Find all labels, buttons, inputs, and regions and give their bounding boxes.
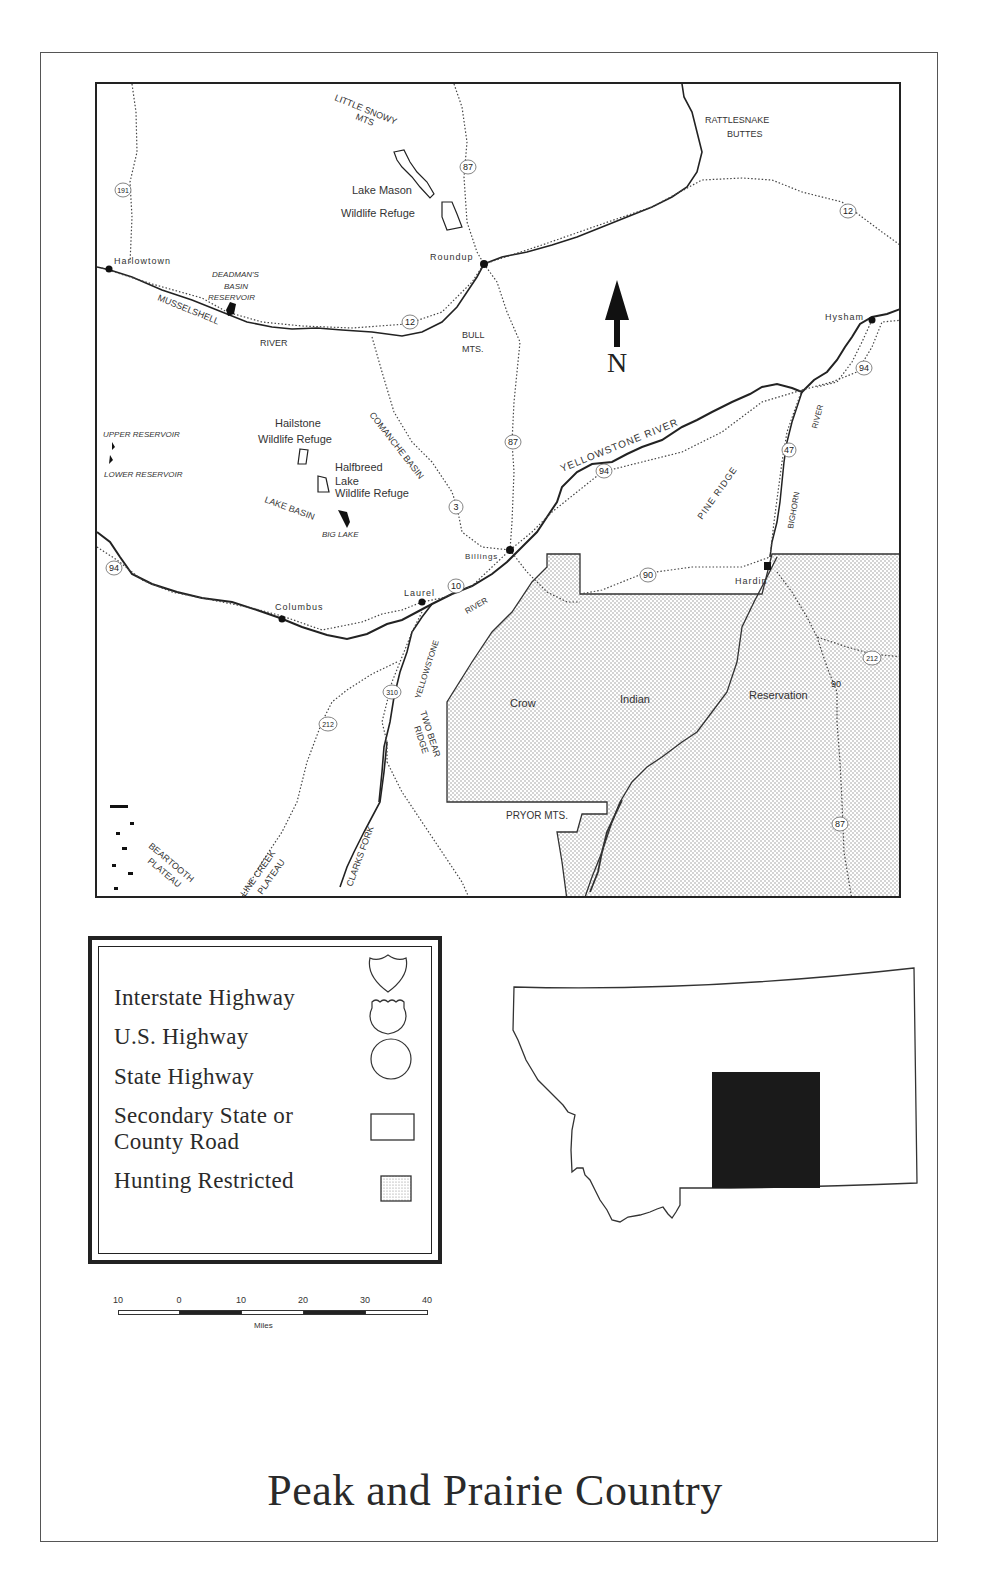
scale-tick: 0	[176, 1295, 181, 1305]
svg-text:94: 94	[109, 563, 119, 573]
shield-us87-south: 87	[832, 817, 848, 831]
label-pine-ridge: PINE RIDGE	[695, 465, 739, 522]
shield-i94-central: 94	[596, 464, 612, 478]
label-hailstone-2: Wildlife Refuge	[258, 433, 332, 445]
shield-us12-west: 12	[402, 315, 418, 329]
stippled-square-icon	[380, 1175, 414, 1205]
label-lake-mason: Lake Mason	[352, 184, 412, 196]
scale-tick: 40	[422, 1295, 432, 1305]
label-crow: Crow	[510, 697, 536, 709]
label-pryor-mts: PRYOR MTS.	[506, 810, 568, 821]
shield-us212-east: 212	[863, 651, 881, 665]
svg-text:94: 94	[859, 363, 869, 373]
label-yellowstone-lower-2: YELLOWSTONE	[413, 639, 440, 700]
scale-tick: 10	[236, 1295, 246, 1305]
label-deadmans-basin-2: BASIN	[224, 282, 248, 291]
svg-text:94: 94	[599, 466, 609, 476]
state-circle-icon	[370, 1038, 414, 1082]
scale-segment	[365, 1310, 428, 1315]
town-label-columbus: Columbus	[275, 602, 324, 612]
label-deadmans-basin: DEADMAN'S	[212, 270, 260, 279]
town-dot-columbus	[279, 616, 286, 623]
scale-tick: 20	[298, 1295, 308, 1305]
scale-tick: 10	[113, 1295, 123, 1305]
label-halfbreed: Halfbreed	[335, 461, 383, 473]
label-lake-basin: LAKE BASIN	[263, 494, 316, 521]
clarks-fork-river	[340, 742, 387, 887]
label-reservation: Reservation	[749, 689, 808, 701]
label-bighorn: BIGHORN	[786, 491, 801, 530]
road-i94-west	[97, 547, 510, 630]
shield-i94-east: 94	[856, 361, 872, 375]
shield-us310: 310	[383, 685, 401, 699]
legend: Interstate Highway U.S. Highway State Hi…	[88, 936, 442, 1264]
svg-text:87: 87	[463, 162, 473, 172]
big-lake	[338, 510, 350, 528]
town-label-hysham: Hysham	[825, 312, 864, 322]
town-label-harlowtown: Harlowtown	[114, 256, 171, 266]
svg-text:87: 87	[835, 819, 845, 829]
north-arrow-icon	[605, 280, 629, 347]
legend-label-secondary-road: Secondary State or	[114, 1103, 293, 1129]
svg-text:3: 3	[453, 502, 458, 512]
road-hysham	[817, 320, 872, 387]
legend-label-county-road: County Road	[114, 1129, 239, 1155]
svg-text:212: 212	[322, 721, 334, 728]
us-shield-icon	[366, 996, 414, 1036]
town-label-roundup: Roundup	[430, 252, 474, 262]
label-bighorn-river: RIVER	[810, 403, 825, 429]
road-us12-east	[484, 178, 901, 264]
scale-segment	[303, 1310, 366, 1315]
svg-text:90: 90	[831, 679, 841, 689]
svg-text:47: 47	[784, 445, 794, 455]
road-us87-central	[484, 264, 520, 550]
legend-label-state-highway: State Highway	[114, 1064, 254, 1090]
shield-mt47: 47	[782, 443, 796, 457]
label-hailstone: Hailstone	[275, 417, 321, 429]
interstate-shield-icon	[366, 952, 414, 996]
montana-outline	[500, 960, 920, 1230]
hailstone-refuge	[298, 449, 308, 464]
scale-unit-label: Miles	[254, 1321, 273, 1330]
road-us191	[130, 84, 137, 264]
svg-text:191: 191	[117, 187, 129, 194]
label-halfbreed-2: Lake	[335, 475, 359, 487]
legend-label-interstate: Interstate Highway	[114, 985, 295, 1011]
region-highlight	[712, 1072, 820, 1188]
legend-label-hunting-restricted: Hunting Restricted	[114, 1168, 294, 1194]
scale-segment	[118, 1310, 180, 1315]
shield-us12-east: 12	[840, 204, 856, 218]
town-label-hardin: Hardin	[735, 576, 768, 586]
north-arrow-label: N	[607, 347, 627, 378]
upper-reservoir	[112, 442, 115, 450]
label-bull-mts: BULL	[462, 330, 485, 340]
inset-locator-map	[500, 960, 920, 1234]
label-rattlesnake-buttes-2: BUTTES	[727, 129, 763, 139]
shield-us212-west: 212	[319, 717, 337, 731]
label-yellowstone-river-lower: RIVER	[464, 596, 490, 616]
town-dot-roundup	[480, 260, 488, 268]
label-bull-mts-2: MTS.	[462, 344, 484, 354]
label-lake-mason-2: Wildlife Refuge	[341, 207, 415, 219]
main-map: N 191 87 12 12 87 3 94 94 94 47 90 10 31…	[95, 82, 901, 898]
label-clarks-fork: CLARKS FORK	[344, 825, 375, 888]
label-yellowstone-river: YELLOWSTONE RIVER	[559, 416, 680, 474]
svg-text:310: 310	[386, 689, 398, 696]
label-rattlesnake-buttes: RATTLESNAKE	[705, 115, 769, 125]
town-label-laurel: Laurel	[404, 588, 435, 598]
town-dot-laurel	[419, 599, 426, 606]
bighorn-river	[770, 392, 802, 557]
scale-bar: 10 0 10 20 30 40 Miles	[100, 1295, 440, 1345]
shield-us87-north: 87	[460, 160, 476, 174]
legend-label-us-highway: U.S. Highway	[114, 1024, 249, 1050]
town-dot-hysham	[869, 317, 876, 324]
label-upper-reservoir: UPPER RESERVOIR	[103, 430, 180, 439]
halfbreed-lake-refuge	[318, 476, 329, 492]
lower-reservoir	[109, 455, 113, 464]
shield-us87-central: 87	[505, 435, 521, 449]
svg-text:10: 10	[451, 581, 461, 591]
shield-i90-east: 90	[831, 679, 841, 689]
label-musselshell-river: RIVER	[260, 338, 288, 348]
shield-i90-central: 90	[640, 568, 656, 582]
beartooth-lakes	[110, 805, 134, 890]
